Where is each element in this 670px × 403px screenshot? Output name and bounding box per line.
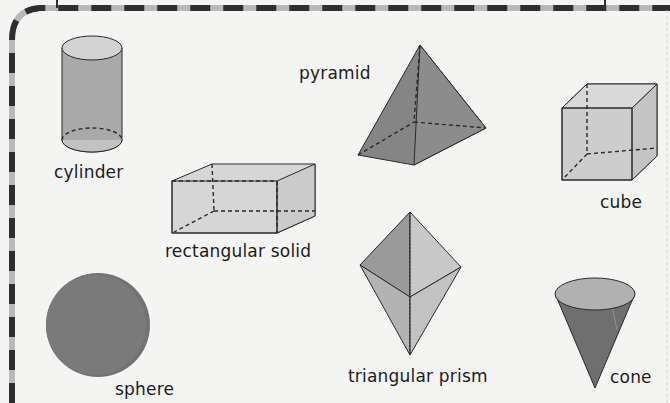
cone-label: cone [610, 369, 652, 386]
geometric-solids-diagram: cylinder pyramid cube rectangular solid [0, 0, 670, 403]
cone-icon [0, 0, 670, 403]
